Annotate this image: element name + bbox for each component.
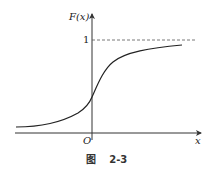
x-axis-label: x xyxy=(195,136,201,146)
figure: F(x) 1 O x 图 2-3 xyxy=(0,0,213,180)
cdf-curve xyxy=(16,45,182,127)
caption-prefix: 图 xyxy=(86,154,96,165)
y-axis-label: F(x) xyxy=(69,12,89,22)
figure-caption: 图 2-3 xyxy=(0,151,213,166)
y-tick-one: 1 xyxy=(83,35,89,45)
origin-label: O xyxy=(83,136,91,146)
caption-number: 2-3 xyxy=(109,154,127,165)
